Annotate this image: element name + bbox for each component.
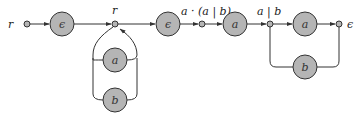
state-b-2: b <box>293 55 317 79</box>
state-symbol: a <box>232 18 239 31</box>
junction-a-dot-a-or-b <box>199 21 205 27</box>
state-epsilon-2: ϵ <box>156 12 180 36</box>
state-symbol: ϵ <box>59 18 65 31</box>
junction-a-or-b <box>267 21 273 27</box>
state-loop-b: b <box>103 88 127 112</box>
state-a-2: a <box>293 12 317 36</box>
state-symbol: a <box>112 54 119 67</box>
edge-branch-b-end <box>317 27 339 67</box>
junction-label-a-dot-a-or-b: a · (a | b) <box>181 5 231 19</box>
junction-end <box>336 21 342 27</box>
state-epsilon-1: ϵ <box>50 12 74 36</box>
states: ϵ a b ϵ a a b <box>50 12 317 112</box>
edge-branch-ab-b <box>270 27 293 67</box>
nfa-diagram: r r a · (a | b) a | b ϵ ϵ <box>0 0 364 119</box>
junction-start <box>24 21 30 27</box>
state-symbol: b <box>111 94 118 107</box>
edges <box>30 24 339 100</box>
start-label: r <box>8 18 14 31</box>
state-a-1: a <box>223 12 247 36</box>
state-symbol: b <box>301 61 308 74</box>
junction-label-a-or-b: a | b <box>257 5 281 19</box>
state-symbol: ϵ <box>165 18 171 31</box>
junction-label-r: r <box>112 4 118 17</box>
junction-label-end: ϵ <box>347 18 353 31</box>
state-symbol: a <box>302 18 309 31</box>
state-loop-a: a <box>103 48 127 72</box>
junction-r <box>112 21 118 27</box>
